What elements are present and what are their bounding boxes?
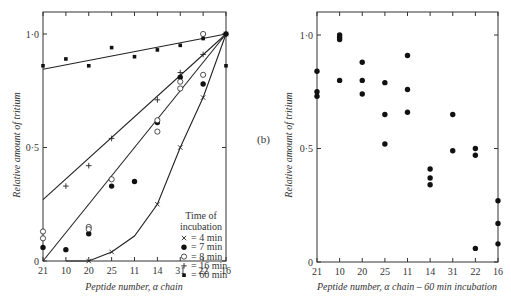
open-circle-marker (155, 118, 160, 123)
filled-circle-marker (382, 112, 387, 117)
filled-circle-marker (314, 94, 319, 99)
filled-circle-marker (109, 183, 114, 188)
panel-b: 211020251114312216 00·51·0 (b) Peptide n… (257, 12, 503, 292)
x-tick-label: 16 (493, 266, 503, 277)
panel-b-points (314, 32, 500, 251)
y-tick-label: 0·5 (26, 142, 39, 153)
panel-b-label: (b) (257, 133, 270, 146)
filled-circle-marker (382, 80, 387, 85)
open-circle-marker (109, 177, 114, 182)
open-circle-marker (181, 254, 186, 259)
fit-line (43, 34, 226, 200)
filled-circle-marker (473, 146, 478, 151)
filled-circle-marker (360, 78, 365, 83)
filled-circle-marker (360, 91, 365, 96)
filled-circle-marker (473, 246, 478, 251)
filled-circle-marker (132, 179, 137, 184)
x-tick-label: 10 (61, 265, 71, 276)
open-circle-marker (178, 86, 183, 91)
panel-a: 211020251114312216 00·51·0 Peptide numbe… (11, 12, 231, 292)
x-tick-label: 22 (470, 266, 480, 277)
filled-square-marker (110, 46, 114, 50)
x-tick-label: 21 (38, 265, 48, 276)
filled-circle-marker (427, 182, 432, 187)
panel-b-x-ticks: 211020251114312216 (312, 12, 503, 277)
filled-circle-marker (450, 148, 455, 153)
filled-circle-marker (314, 69, 319, 74)
x-tick-label: 21 (312, 266, 322, 277)
x-tick-label: 20 (357, 266, 367, 277)
legend-title-line2: incubation (180, 221, 222, 232)
fit-line (43, 34, 226, 69)
panel-b-frame (317, 12, 498, 262)
x-tick-label: 14 (152, 265, 162, 276)
filled-circle-marker (200, 81, 205, 86)
panel-b-y-axis-title: Relative amount of tritium (283, 92, 294, 198)
open-circle-marker (201, 31, 206, 36)
y-tick-label: 1·0 (26, 29, 39, 40)
y-tick-label: 0·5 (300, 143, 313, 154)
x-tick-label: 20 (84, 265, 94, 276)
open-circle-marker (201, 72, 206, 77)
x-marker (182, 236, 186, 240)
plus-marker (63, 183, 69, 189)
panel-b-x-axis-title: Peptide number, α chain – 60 min incubat… (316, 281, 497, 292)
filled-circle-marker (337, 78, 342, 83)
y-tick-label: 0 (308, 257, 313, 268)
plus-marker (86, 163, 92, 169)
legend: Time of incubation = 4 min= 7 min= 8 min… (180, 210, 227, 280)
legend-entry-label: = 60 min (191, 269, 227, 280)
filled-circle-marker (405, 87, 410, 92)
x-tick-label: 25 (380, 266, 390, 277)
open-circle-marker (40, 229, 45, 234)
filled-circle-marker (427, 166, 432, 171)
panel-b-y-ticks: 00·51·0 (300, 30, 498, 268)
y-tick-label: 1·0 (300, 30, 313, 41)
filled-circle-marker (63, 247, 68, 252)
legend-entries: = 4 min= 7 min= 8 min= 16 min= 60 min (181, 232, 227, 280)
open-circle-marker (178, 79, 183, 84)
filled-circle-marker (40, 245, 45, 250)
filled-circle-marker (382, 141, 387, 146)
open-circle-marker (155, 129, 160, 134)
filled-circle-marker (405, 109, 410, 114)
filled-square-marker (64, 57, 68, 61)
filled-circle-marker (181, 245, 186, 250)
x-marker (109, 250, 113, 254)
open-circle-marker (86, 227, 91, 232)
x-marker (178, 145, 182, 149)
plus-marker (177, 70, 183, 76)
filled-circle-marker (495, 221, 500, 226)
x-tick-label: 14 (425, 266, 435, 277)
filled-circle-marker (495, 198, 500, 203)
filled-square-marker (182, 273, 186, 277)
filled-square-marker (224, 64, 228, 68)
x-tick-label: 31 (448, 266, 458, 277)
filled-circle-marker (337, 37, 342, 42)
y-tick-label: 0 (34, 256, 39, 267)
filled-circle-marker (495, 241, 500, 246)
panel-a-y-axis-title: Relative amount of tritium (11, 92, 22, 198)
open-circle-marker (40, 236, 45, 241)
filled-circle-marker (405, 53, 410, 58)
legend-title-line1: Time of (185, 210, 217, 221)
filled-circle-marker (450, 112, 455, 117)
filled-square-marker (41, 64, 45, 68)
filled-square-marker (201, 37, 205, 41)
x-tick-label: 11 (130, 265, 140, 276)
filled-square-marker (87, 64, 91, 68)
x-tick-label: 25 (107, 265, 117, 276)
panel-a-x-axis-title: Peptide number, α chain (84, 281, 182, 292)
filled-circle-marker (473, 153, 478, 158)
filled-circle-marker (427, 175, 432, 180)
x-tick-label: 10 (335, 266, 345, 277)
filled-square-marker (178, 44, 182, 48)
figure: 211020251114312216 00·51·0 Peptide numbe… (0, 0, 511, 300)
filled-square-marker (224, 32, 228, 36)
filled-circle-marker (360, 60, 365, 65)
filled-square-marker (156, 48, 160, 52)
x-marker (155, 202, 159, 206)
filled-square-marker (133, 55, 137, 59)
x-tick-label: 11 (403, 266, 413, 277)
